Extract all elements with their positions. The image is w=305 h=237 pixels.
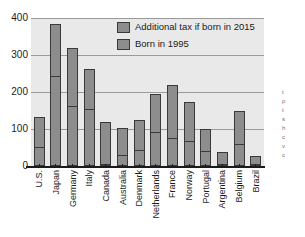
bar-segment-born-1995 — [201, 151, 210, 165]
x-tick-mark — [239, 164, 240, 168]
bar-total — [167, 85, 178, 166]
x-axis-label-portugal: Portugal — [197, 168, 214, 237]
bar-segment-born-1995 — [135, 150, 144, 165]
bar-total — [34, 117, 45, 166]
x-axis-label-japan: Japan — [48, 168, 65, 237]
x-tick-mark — [222, 164, 223, 168]
x-tick-mark — [255, 164, 256, 168]
x-tick-mark — [139, 164, 140, 168]
legend-item-label: Additional tax if born in 2015 — [135, 22, 255, 32]
x-tick-mark — [205, 164, 206, 168]
x-axis-label-brazil: Brazil — [247, 168, 264, 237]
bar-total — [184, 102, 195, 166]
bar-total — [150, 94, 161, 166]
x-axis-label-denmark: Denmark — [131, 168, 148, 237]
margin-text-line: c — [282, 133, 304, 142]
x-axis-label-text: Belgium — [235, 170, 244, 203]
y-axis: 4003002001000 — [0, 0, 28, 237]
bar-total — [50, 24, 61, 166]
x-axis-label-text: Brazil — [251, 170, 260, 193]
x-tick-mark — [39, 164, 40, 168]
bar-slot — [64, 18, 81, 166]
bar-segment-born-1995 — [35, 147, 44, 165]
bar-segment-born-1995 — [168, 138, 177, 165]
margin-text-line: t — [282, 88, 304, 97]
bar-total — [100, 122, 111, 166]
bar-total — [67, 48, 78, 166]
y-tick-label-100: 100 — [2, 124, 28, 134]
legend-swatch-icon — [117, 22, 130, 33]
x-tick-mark — [155, 164, 156, 168]
x-axis-label-norway: Norway — [181, 168, 198, 237]
x-axis-label-text: Netherlands — [151, 170, 160, 219]
bar-slot — [98, 18, 115, 166]
margin-text-line: h — [282, 124, 304, 133]
x-axis-label-text: U.S. — [35, 170, 44, 188]
x-axis-label-netherlands: Netherlands — [148, 168, 165, 237]
x-tick-mark — [72, 164, 73, 168]
x-tick-mark — [89, 164, 90, 168]
x-axis-label-canada: Canada — [98, 168, 115, 237]
x-tick-mark — [172, 164, 173, 168]
x-axis-labels: U.S.JapanGermanyItalyCanadaAustraliaDenm… — [31, 168, 264, 237]
bar-total — [84, 69, 95, 166]
margin-text-fragment: tptshcvc — [282, 88, 304, 160]
bar-segment-born-1995 — [185, 141, 194, 165]
legend-swatch-icon — [117, 39, 130, 50]
x-axis-label-text: Norway — [185, 170, 194, 201]
y-tick-label-400: 400 — [2, 13, 28, 23]
x-axis-label-text: Japan — [51, 170, 60, 195]
x-tick-mark — [189, 164, 190, 168]
bar-total — [234, 111, 245, 166]
chart-legend: Additional tax if born in 2015 Born in 1… — [117, 20, 262, 54]
x-axis-label-text: Denmark — [135, 170, 144, 207]
x-axis-label-text: Australia — [118, 170, 127, 205]
bar-segment-born-1995 — [51, 76, 60, 165]
y-tick-label-200: 200 — [2, 87, 28, 97]
bar-slot — [31, 18, 48, 166]
x-axis-label-us: U.S. — [31, 168, 48, 237]
legend-item-additional-tax: Additional tax if born in 2015 — [117, 20, 262, 34]
x-axis-label-australia: Australia — [114, 168, 131, 237]
bar-segment-born-1995 — [235, 144, 244, 165]
bar-total — [134, 120, 145, 166]
margin-text-line: v — [282, 142, 304, 151]
x-axis-label-belgium: Belgium — [231, 168, 248, 237]
x-tick-mark — [105, 164, 106, 168]
legend-item-born-1995: Born in 1995 — [117, 37, 262, 51]
x-axis-label-text: France — [168, 170, 177, 198]
bar-segment-born-1995 — [85, 109, 94, 165]
x-axis-label-text: Portugal — [201, 170, 210, 204]
x-tick-mark — [55, 164, 56, 168]
chart-page: 4003002001000 U.S.JapanGermanyItalyCanad… — [0, 0, 305, 237]
x-tick-mark — [122, 164, 123, 168]
x-axis-label-text: Argentina — [218, 170, 227, 209]
bar-total — [200, 129, 211, 166]
x-axis-label-text: Germany — [68, 170, 77, 207]
bar-segment-born-1995 — [68, 106, 77, 165]
bar-slot — [81, 18, 98, 166]
x-axis-label-text: Italy — [85, 170, 94, 187]
x-axis-label-argentina: Argentina — [214, 168, 231, 237]
legend-item-label: Born in 1995 — [135, 39, 189, 49]
y-tick-label-0: 0 — [2, 161, 28, 171]
x-axis-label-france: France — [164, 168, 181, 237]
x-axis-label-italy: Italy — [81, 168, 98, 237]
margin-text-line: s — [282, 115, 304, 124]
x-axis-label-text: Canada — [101, 170, 110, 202]
y-tick-label-300: 300 — [2, 50, 28, 60]
margin-text-line: t — [282, 106, 304, 115]
x-axis-label-germany: Germany — [64, 168, 81, 237]
bar-total — [117, 128, 128, 166]
margin-text-line: p — [282, 97, 304, 106]
bar-segment-born-1995 — [151, 132, 160, 165]
bar-slot — [48, 18, 65, 166]
margin-text-line: c — [282, 151, 304, 160]
